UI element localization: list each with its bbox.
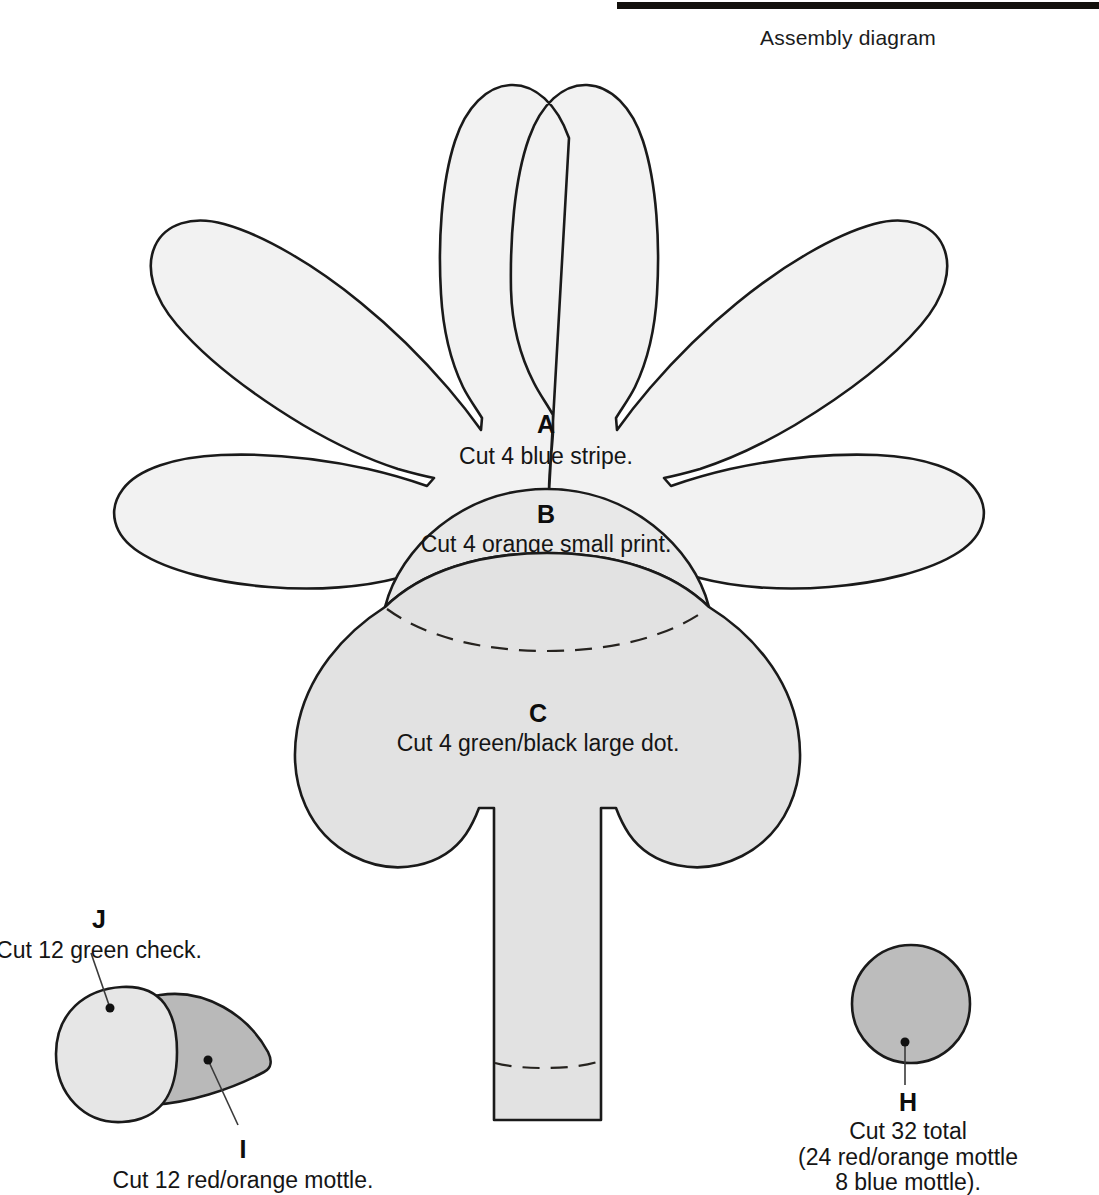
- assembly-diagram-page: Assembly diagram A Cut 4 blue stripe. B …: [0, 0, 1099, 1195]
- piece-j-shape: [56, 987, 177, 1122]
- piece-h-shape: [852, 945, 970, 1085]
- piece-c-letter: C: [529, 699, 547, 727]
- piece-a-instruction: Cut 4 blue stripe.: [459, 443, 633, 469]
- piece-j-outline: [56, 987, 177, 1122]
- piece-j-instruction: Cut 12 green check.: [0, 937, 202, 963]
- piece-c-shape: [295, 553, 800, 1120]
- piece-i-letter: I: [240, 1135, 247, 1163]
- piece-b-letter: B: [537, 500, 555, 528]
- piece-h-letter: H: [899, 1088, 917, 1116]
- pattern-svg: A Cut 4 blue stripe. B Cut 4 orange smal…: [0, 0, 1099, 1195]
- piece-c-instruction: Cut 4 green/black large dot.: [397, 730, 680, 756]
- piece-j-leader-dot: [106, 1004, 115, 1013]
- piece-c-outline: [295, 553, 800, 1120]
- piece-h-instruction-line2: (24 red/orange mottle: [798, 1144, 1018, 1170]
- piece-j-letter: J: [92, 905, 106, 933]
- piece-h-instruction-line3: 8 blue mottle).: [835, 1169, 981, 1195]
- piece-i-leader-dot: [204, 1056, 213, 1065]
- piece-h-instruction-line1: Cut 32 total: [849, 1118, 967, 1144]
- piece-h-outline: [852, 945, 970, 1063]
- piece-h-leader-dot: [901, 1038, 910, 1047]
- piece-a-letter: A: [537, 410, 555, 438]
- piece-h-label: H Cut 32 total (24 red/orange mottle 8 b…: [798, 1088, 1018, 1195]
- piece-i-instruction: Cut 12 red/orange mottle.: [113, 1167, 374, 1193]
